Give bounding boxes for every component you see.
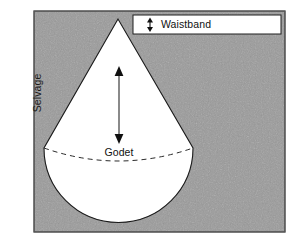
- diagram-canvas: [0, 0, 297, 242]
- selvage-label: Selvage: [30, 56, 44, 130]
- waistband-label: Waistband: [161, 18, 211, 30]
- godet-label: Godet: [78, 146, 160, 158]
- godet-diagram-figure: Selvage Godet Waistband: [0, 0, 297, 242]
